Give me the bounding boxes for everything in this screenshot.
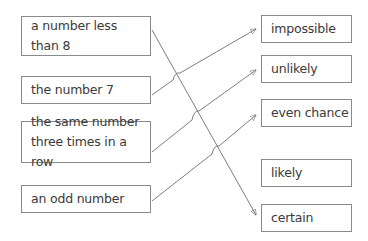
right-item-even-chance[interactable]: even chance <box>261 99 352 127</box>
left-item-text-line: the same number <box>31 112 150 132</box>
left-item-same-number-three-times[interactable]: the same number three times in a row <box>21 121 151 163</box>
left-item-text-line: an odd number <box>31 189 124 209</box>
left-item-text-line: a number less <box>31 16 117 36</box>
left-item-odd-number[interactable]: an odd number <box>21 185 151 213</box>
left-item-text-line: the number 7 <box>31 80 114 100</box>
right-item-label: impossible <box>271 19 336 39</box>
connector-less-than-8-to-certain <box>152 30 256 215</box>
connector-same-number-to-unlikely <box>152 70 256 152</box>
left-item-text-line: than 8 <box>31 36 117 56</box>
right-item-impossible[interactable]: impossible <box>261 15 352 43</box>
connector-number-7-to-impossible <box>152 29 256 95</box>
left-item-number-7[interactable]: the number 7 <box>21 76 151 104</box>
right-item-certain[interactable]: certain <box>261 204 352 232</box>
left-item-less-than-8[interactable]: a number less than 8 <box>21 16 151 56</box>
right-item-label: unlikely <box>271 59 318 79</box>
right-item-label: certain <box>271 208 313 228</box>
right-item-unlikely[interactable]: unlikely <box>261 55 352 83</box>
right-item-likely[interactable]: likely <box>261 159 352 187</box>
left-item-text-line: three times in a row <box>31 132 150 172</box>
right-item-label: likely <box>271 163 302 183</box>
right-item-label: even chance <box>271 103 348 123</box>
